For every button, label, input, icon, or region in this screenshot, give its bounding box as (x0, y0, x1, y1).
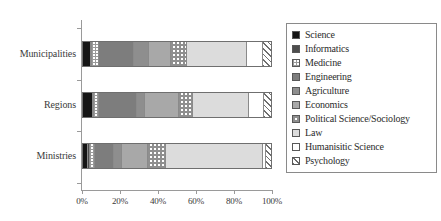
legend-item-humanisitic-science[interactable]: Humanisitic Science (292, 140, 432, 154)
y-tick-2 (77, 131, 82, 132)
plot-area: 0%20%40%60%80%100% MunicipalitiesRegions… (82, 20, 272, 190)
legend-item-informatics[interactable]: Informatics (292, 42, 432, 56)
x-tick-0 (82, 190, 83, 194)
legend-item-political-science-sociology[interactable]: Political Science/Sociology (292, 112, 432, 126)
segment-agriculture (137, 93, 145, 117)
segment-psychology (264, 93, 271, 117)
x-axis-line (81, 190, 272, 191)
x-tick-80 (234, 190, 235, 194)
legend-swatch-science (292, 31, 300, 39)
legend-label-agriculture: Agriculture (305, 86, 349, 96)
legend-swatch-political-science-sociology (292, 115, 300, 123)
legend-label-informatics: Informatics (305, 44, 349, 54)
segment-political-science-sociology (179, 93, 193, 117)
x-tick-label-20: 20% (112, 196, 128, 206)
legend-item-psychology[interactable]: Psychology (292, 154, 432, 168)
stacked-bar-regions (82, 92, 272, 118)
legend-swatch-informatics (292, 45, 300, 53)
legend-item-agriculture[interactable]: Agriculture (292, 84, 432, 98)
segment-engineering (95, 144, 114, 168)
x-tick-20 (120, 190, 121, 194)
segment-science (83, 42, 91, 66)
segment-humanisitic-science (247, 42, 264, 66)
segment-agriculture (114, 144, 122, 168)
legend-item-medicine[interactable]: Medicine (292, 56, 432, 70)
y-tick-3 (77, 183, 82, 184)
x-tick-label-60: 60% (188, 196, 204, 206)
category-label-regions: Regions (44, 99, 76, 110)
legend-label-engineering: Engineering (305, 72, 352, 82)
x-tick-60 (196, 190, 197, 194)
x-tick-100 (272, 190, 273, 194)
legend-swatch-agriculture (292, 87, 300, 95)
legend-swatch-engineering (292, 73, 300, 81)
legend-label-law: Law (305, 128, 322, 138)
segment-agriculture (134, 42, 149, 66)
y-tick-0 (77, 28, 82, 29)
legend-swatch-law (292, 129, 300, 137)
legend-swatch-economics (292, 101, 300, 109)
segment-medicine (92, 42, 100, 66)
segment-psychology (266, 144, 271, 168)
legend-label-science: Science (305, 30, 335, 40)
legend-item-science[interactable]: Science (292, 28, 432, 42)
legend-label-economics: Economics (305, 100, 348, 110)
legend-swatch-medicine (292, 59, 300, 67)
x-tick-label-80: 80% (226, 196, 242, 206)
chart-legend: ScienceInformaticsMedicineEngineeringAgr… (286, 23, 437, 173)
category-label-municipalities: Municipalities (20, 48, 76, 59)
segment-psychology (263, 42, 271, 66)
segment-engineering (99, 42, 134, 66)
stacked-bar-municipalities (82, 41, 272, 67)
legend-item-engineering[interactable]: Engineering (292, 70, 432, 84)
legend-label-political-science-sociology: Political Science/Sociology (305, 114, 410, 124)
legend-item-economics[interactable]: Economics (292, 98, 432, 112)
segment-law (187, 42, 246, 66)
stacked-bar-chart: 0%20%40%60%80%100% MunicipalitiesRegions… (0, 0, 441, 221)
category-label-ministries: Ministries (36, 150, 76, 161)
segment-science (83, 93, 93, 117)
bar-row-municipalities: Municipalities (82, 41, 272, 67)
legend-label-medicine: Medicine (305, 58, 341, 68)
segment-economics (122, 144, 147, 168)
segment-engineering (99, 93, 137, 117)
segment-economics (149, 42, 172, 66)
legend-label-psychology: Psychology (305, 156, 350, 166)
x-tick-label-40: 40% (150, 196, 166, 206)
segment-political-science-sociology (148, 144, 166, 168)
bar-row-ministries: Ministries (82, 143, 272, 169)
x-tick-label-0: 0% (76, 196, 88, 206)
segment-law (166, 144, 264, 168)
legend-swatch-humanisitic-science (292, 143, 300, 151)
x-tick-40 (158, 190, 159, 194)
legend-swatch-psychology (292, 157, 300, 165)
bar-row-regions: Regions (82, 92, 272, 118)
x-tick-label-100: 100% (262, 196, 282, 206)
segment-law (193, 93, 249, 117)
stacked-bar-ministries (82, 143, 272, 169)
segment-economics (145, 93, 179, 117)
segment-humanisitic-science (249, 93, 264, 117)
segment-political-science-sociology (171, 42, 187, 66)
legend-item-law[interactable]: Law (292, 126, 432, 140)
y-tick-1 (77, 80, 82, 81)
legend-label-humanisitic-science: Humanisitic Science (305, 142, 384, 152)
